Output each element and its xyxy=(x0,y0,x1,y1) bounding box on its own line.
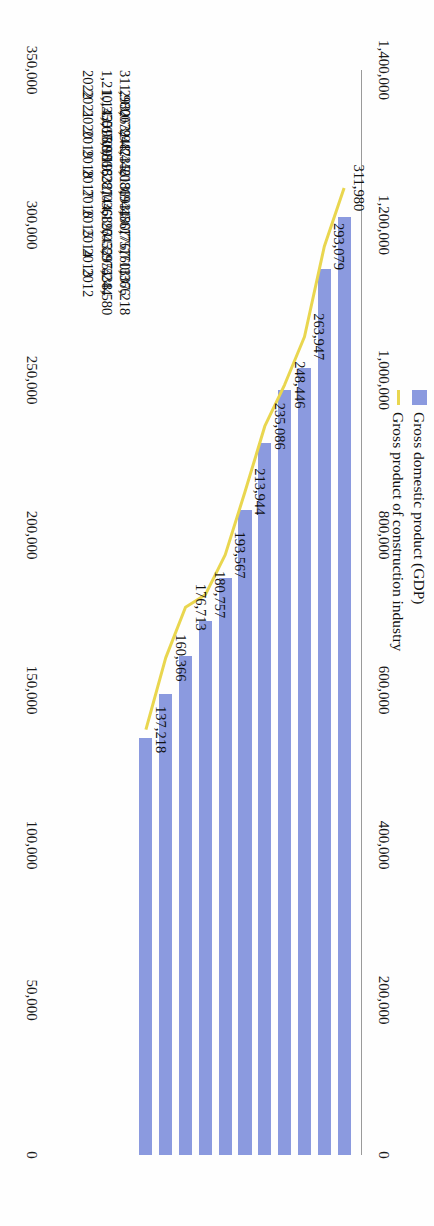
line-series-construction: 137,218160,366176,713180,757193,567213,9… xyxy=(136,70,354,1155)
chart-stage: Gross domestic product (GDP) Gross produ… xyxy=(0,0,434,1226)
line-point-label-2018: 235,086 xyxy=(271,403,288,450)
chart-plot-area: Gross domestic product (GDP) Gross produ… xyxy=(0,0,434,1226)
secondary-axis-tick-label: 50,000 xyxy=(23,979,40,1020)
primary-axis-line xyxy=(361,70,362,1155)
legend-line-swatch-icon xyxy=(391,390,406,405)
primary-axis-tick-label: 600,000 xyxy=(375,666,392,715)
secondary-axis-tick-label: 150,000 xyxy=(23,666,40,715)
primary-axis-tick-label: 1,200,000 xyxy=(375,195,392,255)
primary-axis-tick-label: 0 xyxy=(375,1151,392,1159)
chart-legend: Gross domestic product (GDP) Gross produ… xyxy=(389,390,428,651)
line-point-label-2013: 160,366 xyxy=(172,634,189,681)
primary-axis-tick-label: 400,000 xyxy=(375,821,392,870)
secondary-axis-tick-label: 100,000 xyxy=(23,821,40,870)
primary-axis-tick-label: 1,400,000 xyxy=(375,40,392,100)
legend-item-gdp: Gross domestic product (GDP) xyxy=(410,390,428,651)
line-point-label-2022: 311,980 xyxy=(350,165,367,212)
secondary-axis-tick-label: 0 xyxy=(23,1151,40,1159)
line-point-label-2020: 263,947 xyxy=(310,313,327,360)
legend-label-construction: Gross product of construction industry xyxy=(389,412,407,651)
legend-bar-swatch-icon xyxy=(412,390,427,405)
category-year-label: 2022 xyxy=(79,70,97,90)
line-point-label-2021: 293,079 xyxy=(330,223,347,270)
category-axis: 137,218538,5802012160,366595,2442013176,… xyxy=(42,70,134,1155)
primary-axis-tick-label: 200,000 xyxy=(375,976,392,1025)
line-point-label-2012: 137,218 xyxy=(152,706,169,753)
primary-axis-tick-label: 800,000 xyxy=(375,511,392,560)
secondary-axis-tick-label: 350,000 xyxy=(23,46,40,95)
category-gdp-value: 1,210,355 xyxy=(97,70,115,90)
secondary-axis-tick-label: 300,000 xyxy=(23,201,40,250)
category-construction-value: 311,980 xyxy=(116,70,134,90)
secondary-axis-tick-label: 250,000 xyxy=(23,356,40,405)
legend-label-gdp: Gross domestic product (GDP) xyxy=(410,412,428,604)
legend-item-construction: Gross product of construction industry xyxy=(389,390,407,651)
line-point-label-2016: 193,567 xyxy=(231,531,248,578)
secondary-axis-tick-label: 200,000 xyxy=(23,511,40,560)
line-series-path xyxy=(136,70,354,1155)
primary-axis-ticks: 0200,000400,000600,000800,0001,000,0001,… xyxy=(368,70,392,1155)
line-point-label-2017: 213,944 xyxy=(251,468,268,515)
secondary-axis-ticks: 050,000100,000150,000200,000250,000300,0… xyxy=(16,70,40,1155)
line-point-label-2014: 176,713 xyxy=(192,584,209,631)
category-group-2022: 311,9801,210,3552022 xyxy=(79,70,134,90)
line-point-label-2019: 248,446 xyxy=(291,361,308,408)
primary-axis-tick-label: 1,000,000 xyxy=(375,350,392,410)
line-point-label-2015: 180,757 xyxy=(211,571,228,618)
